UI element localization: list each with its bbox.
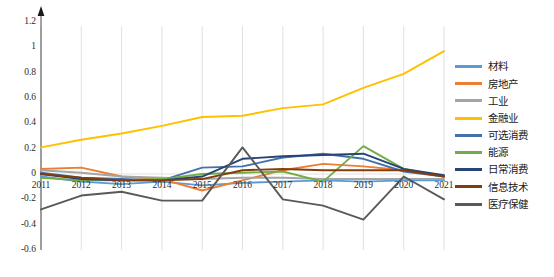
legend-label: 能源 [488,147,508,158]
y-tick-label: 1 [2,41,36,51]
legend-label: 金融业 [488,113,518,124]
x-tick-label: 2011 [23,180,59,190]
y-tick-label: 0.4 [2,117,36,127]
legend-label: 工业 [488,96,508,107]
legend-item-2[interactable]: 工业 [455,92,554,109]
x-tick-label: 2017 [265,180,301,190]
legend-item-3[interactable]: 金融业 [455,110,554,127]
y-axis [38,6,45,250]
legend-color-swatch [455,99,482,102]
legend-item-0[interactable]: 材料 [455,58,554,75]
legend-label: 材料 [488,61,508,72]
legend-color-swatch [455,82,482,85]
legend-label: 可选消费 [488,130,528,141]
legend-item-5[interactable]: 能源 [455,144,554,161]
y-tick-label: -0.4 [2,219,36,229]
x-tick-label: 2020 [386,180,422,190]
legend-label: 房地产 [488,79,518,90]
legend-item-7[interactable]: 信息技术 [455,178,554,195]
x-tick-label: 2014 [144,180,180,190]
legend-item-8[interactable]: 医疗保健 [455,196,554,213]
x-tick-label: 2018 [305,180,341,190]
x-tick-label: 2012 [63,180,99,190]
y-tick-label: -0.6 [2,244,36,254]
gridlines [41,26,444,250]
chart-legend: 材料房地产工业金融业可选消费能源日常消费信息技术医疗保健 [455,58,554,213]
legend-color-swatch [455,168,482,171]
y-tick-label: 0.6 [2,92,36,102]
y-tick-label: 0 [2,168,36,178]
legend-color-swatch [455,203,482,206]
y-tick-label: 0.2 [2,143,36,153]
legend-color-swatch [455,151,482,154]
legend-item-6[interactable]: 日常消费 [455,161,554,178]
legend-label: 信息技术 [488,182,528,193]
y-tick-label: -0.2 [2,193,36,203]
legend-item-4[interactable]: 可选消费 [455,127,554,144]
legend-label: 日常消费 [488,164,528,175]
x-tick-label: 2016 [225,180,261,190]
y-tick-label: 1.2 [2,16,36,26]
legend-color-swatch [455,65,482,68]
y-tick-label: 0.8 [2,67,36,77]
legend-label: 医疗保健 [488,199,528,210]
legend-color-swatch [455,117,482,120]
x-tick-label: 2015 [184,180,220,190]
legend-color-swatch [455,134,482,137]
x-tick-label: 2021 [426,180,462,190]
x-tick-label: 2013 [104,180,140,190]
legend-item-1[interactable]: 房地产 [455,75,554,92]
chart-figure: 材料房地产工业金融业可选消费能源日常消费信息技术医疗保健 1.210.80.60… [0,0,554,277]
x-tick-label: 2019 [345,180,381,190]
